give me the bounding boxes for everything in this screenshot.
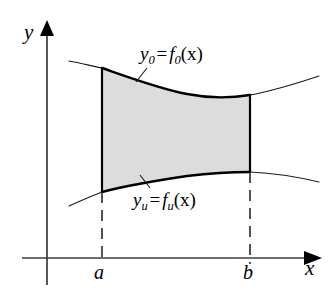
lower-label-y-subscript: u xyxy=(141,199,147,213)
figure-container: y0=f0(x) yu=fu(x) y x a b xyxy=(0,0,335,298)
tick-label-b: b xyxy=(243,262,253,282)
lower-curve-extension-left xyxy=(69,192,102,206)
lower-curve-extension-right xyxy=(250,172,319,182)
x-axis-label: x xyxy=(305,258,314,279)
upper-curve-extension-right xyxy=(250,76,319,95)
tick-label-a: a xyxy=(94,262,104,282)
upper-curve-extension-left xyxy=(69,61,102,68)
upper-label-y-subscript: 0 xyxy=(148,53,154,67)
lower-label-argument: (x) xyxy=(174,189,196,210)
lower-label-f-subscript: u xyxy=(167,199,173,213)
upper-label-argument: (x) xyxy=(181,43,203,64)
lower-label-equals: = xyxy=(148,189,163,210)
upper-label-leader-line xyxy=(136,68,147,82)
y-axis-arrow-icon xyxy=(40,20,54,36)
upper-label-f-subscript: 0 xyxy=(174,53,180,67)
upper-curve-label: y0=f0(x) xyxy=(140,44,203,63)
lower-curve-label: yu=fu(x) xyxy=(133,190,196,209)
y-axis-label: y xyxy=(24,22,33,43)
upper-label-equals: = xyxy=(155,43,170,64)
